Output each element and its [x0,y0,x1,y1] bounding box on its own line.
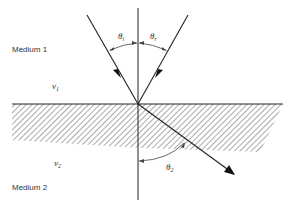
incident-arrow-icon [113,69,121,78]
velocity-1-label: v1 [52,81,59,92]
reflected-ray [138,15,188,104]
incident-ray [87,15,138,104]
diagram-canvas: Medium 1 Medium 2 v1 v2 θi θr θ2 [0,0,292,209]
velocity-2-label: v2 [54,158,61,169]
theta-r-label: θr [150,31,157,42]
theta-2-label: θ2 [166,162,173,173]
refracted-arrow-icon [224,165,235,175]
reflected-arrow-icon [155,69,163,78]
theta-r-arc [139,41,167,51]
theta-i-label: θi [118,31,124,42]
medium-2-label: Medium 2 [12,183,48,192]
theta-i-arc [109,41,137,51]
medium-1-label: Medium 1 [12,45,48,54]
